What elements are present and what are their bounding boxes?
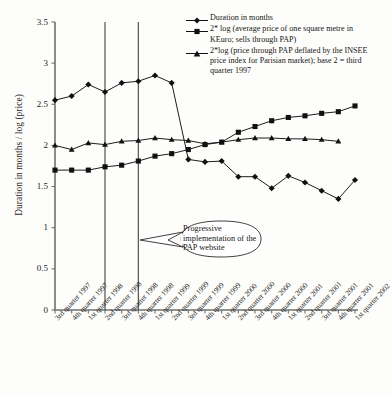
legend-item-price[interactable]: 2* log (average price of one square metr… <box>186 24 376 44</box>
legend-item-deflated-price[interactable]: 2*log (price through PAP deflated by the… <box>186 46 376 77</box>
triangle-marker-icon <box>186 50 208 57</box>
annotation-callout-text: Progressive implementation of the PAP we… <box>183 224 269 253</box>
legend-label-deflated-price: 2*log (price through PAP deflated by the… <box>210 46 376 77</box>
diamond-marker-icon <box>186 17 208 24</box>
chart-legend: Duration in months 2* log (average price… <box>186 13 376 78</box>
legend-item-duration[interactable]: Duration in months <box>186 13 376 23</box>
chart-plot-area: Duration in months / log (price) 00.511.… <box>0 0 376 370</box>
square-marker-icon <box>186 28 208 35</box>
legend-label-duration: Duration in months <box>210 13 376 23</box>
legend-label-price: 2* log (average price of one square metr… <box>210 24 376 44</box>
